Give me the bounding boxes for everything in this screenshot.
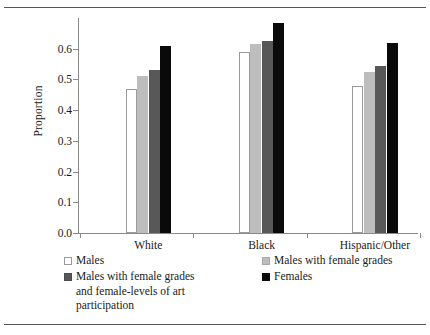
bar (160, 46, 171, 233)
x-axis-tick-label: Black (248, 239, 275, 251)
y-axis-tick-label: 0.2 (58, 166, 72, 178)
y-axis-tick-label: 0.4 (58, 104, 72, 116)
legend-label: Males with female grades (76, 269, 194, 284)
legend-item-males-female-grades: Males with female grades (262, 253, 427, 268)
grades-art-swatch-icon (64, 273, 72, 281)
x-axis-tick-label: White (134, 239, 162, 251)
bar (364, 72, 375, 233)
grades-swatch-icon (262, 257, 270, 265)
legend-item-males-grades-art: Males with female grades and female-leve… (64, 269, 254, 313)
x-axis-tick-label: Hispanic/Other (340, 239, 410, 251)
legend-column-left: Males Males with female grades and femal… (64, 253, 254, 314)
grouped-bar-chart: Proportion 0.00.10.20.30.40.50.6 WhiteBl… (0, 0, 430, 335)
bar (126, 89, 137, 233)
legend-label-line3: participation (76, 298, 194, 313)
females-swatch-icon (262, 273, 270, 281)
legend-label: Males (76, 253, 104, 268)
bar-series-area (78, 18, 418, 233)
legend-label: Females (274, 269, 312, 284)
y-axis-tick-label: 0.5 (58, 73, 72, 85)
bar (239, 52, 250, 233)
legend-label: Males with female grades (274, 253, 392, 268)
x-axis-tick-mark (307, 233, 308, 238)
bar (262, 41, 273, 233)
bar (352, 86, 363, 233)
males-swatch-icon (64, 257, 72, 265)
bar (387, 43, 398, 233)
x-axis-line (78, 233, 418, 234)
x-axis-tick-mark (80, 233, 81, 238)
bar (273, 23, 284, 233)
x-axis-tick-mark (193, 233, 194, 238)
x-axis-tick-mark (420, 233, 421, 238)
bar (375, 66, 386, 233)
y-axis-tick-label: 0.6 (58, 43, 72, 55)
bar (137, 76, 148, 233)
legend-label-group: Males with female grades and female-leve… (76, 269, 194, 313)
y-axis-tick-label: 0.3 (58, 135, 72, 147)
bar (149, 70, 160, 233)
bar (250, 44, 261, 233)
legend-item-males: Males (64, 253, 254, 268)
y-axis-tick-label: 0.1 (58, 196, 72, 208)
legend-item-females: Females (262, 269, 427, 284)
y-axis-tick-label: 0.0 (58, 227, 72, 239)
legend-column-right: Males with female grades Females (262, 253, 427, 285)
legend-label-line2: and female-levels of art (76, 284, 194, 299)
